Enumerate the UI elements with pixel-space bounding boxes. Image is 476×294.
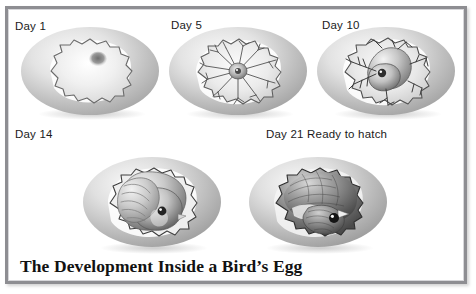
caption-day-21: Day 21 Ready to hatch — [266, 128, 387, 140]
figure-root: Day 1 — [0, 0, 476, 294]
egg-day-14 — [82, 152, 224, 256]
figure-title: The Development Inside a Bird’s Egg — [20, 256, 302, 277]
egg-day-1 — [20, 26, 162, 120]
caption-day-14: Day 14 — [15, 128, 53, 140]
egg-day-5 — [168, 26, 310, 120]
egg-day-21 — [248, 152, 390, 256]
egg-day-10 — [316, 26, 458, 120]
